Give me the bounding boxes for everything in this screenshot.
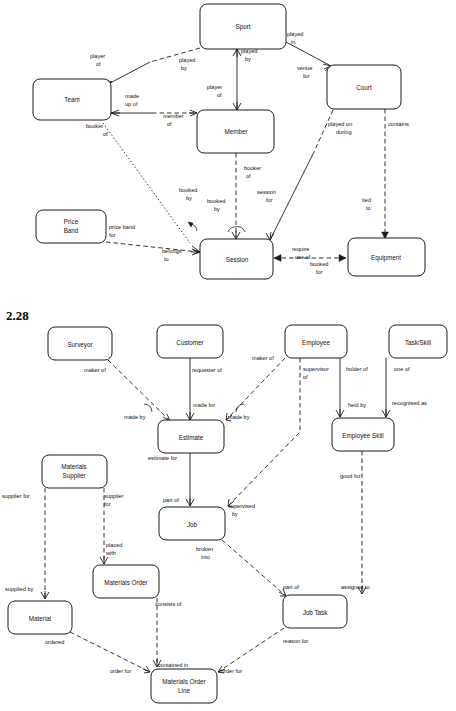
relationship-label: made bbox=[125, 93, 139, 99]
section-number: 2.28 bbox=[6, 308, 29, 323]
relationship-label: part of bbox=[163, 497, 179, 503]
relationship-label: use of bbox=[295, 254, 311, 260]
relationship-label: booker bbox=[244, 165, 261, 171]
relationship-label: supplier for bbox=[2, 493, 30, 499]
relationship-label: consists of bbox=[155, 601, 182, 607]
relationship-label: held by bbox=[348, 402, 366, 408]
relationship-label: good for bbox=[340, 473, 361, 479]
relationship-label: played bbox=[287, 31, 303, 37]
relationship-label: broken bbox=[196, 546, 213, 552]
entity-label: Surveyor bbox=[67, 341, 92, 349]
entity-label-line1: Materials Order bbox=[162, 678, 205, 685]
entity-equipment[interactable]: Equipment bbox=[348, 238, 425, 276]
entity-materials-order[interactable]: Materials Order bbox=[93, 565, 159, 598]
relationship-label: tied bbox=[362, 197, 371, 203]
relationship-label: order for bbox=[110, 668, 131, 674]
relationship-label: up of bbox=[125, 101, 138, 107]
entity-label-line2: Line bbox=[178, 687, 190, 694]
entity-employee-skill[interactable]: Employee Skill bbox=[332, 418, 394, 451]
entity-sport[interactable]: Sport bbox=[200, 4, 286, 49]
relationship-label: placed bbox=[106, 542, 122, 548]
entity-customer[interactable]: Customer bbox=[157, 325, 223, 358]
relationship-label: to bbox=[366, 205, 371, 211]
entity-session[interactable]: Session bbox=[200, 239, 273, 279]
entity-label: Materials Order bbox=[104, 579, 147, 586]
entity-court[interactable]: Court bbox=[327, 65, 401, 109]
entity-surveyor[interactable]: Surveyor bbox=[48, 327, 112, 360]
relationship-label: one of bbox=[394, 366, 410, 372]
relationship-label: played bbox=[241, 48, 257, 54]
relationship-label: of bbox=[246, 173, 251, 179]
relationship-label: of bbox=[303, 374, 308, 380]
relationship-label: made by bbox=[124, 414, 146, 420]
entity-estimate[interactable]: Estimate bbox=[158, 420, 224, 453]
entity-label: Sport bbox=[235, 23, 250, 31]
entity-label-line2: Supplier bbox=[62, 472, 85, 480]
relationship-label: for bbox=[104, 501, 111, 507]
relationship-label: holder of bbox=[346, 366, 368, 372]
entity-price-band[interactable]: Price Band bbox=[36, 210, 106, 243]
relationship-label: order for bbox=[221, 668, 242, 674]
relationship-label: for bbox=[316, 269, 323, 275]
relationship-label: booker bbox=[86, 123, 103, 129]
relationship-label: booked bbox=[310, 261, 328, 267]
relationship-label: player bbox=[90, 53, 105, 59]
relationship-label: session bbox=[257, 189, 276, 195]
relationship-label: made by bbox=[228, 414, 250, 420]
relationship-label: played on bbox=[328, 121, 352, 127]
relationship-label: for bbox=[303, 73, 310, 79]
relationship-label: by bbox=[214, 206, 220, 212]
relationship-label: supervised bbox=[228, 503, 255, 509]
relationship-label: requester of bbox=[192, 367, 222, 373]
entity-label: Job Task bbox=[303, 609, 329, 616]
entity-material[interactable]: Material bbox=[8, 601, 72, 634]
entity-job-task[interactable]: Job Task bbox=[283, 595, 347, 628]
relationship-label: venue bbox=[297, 65, 312, 71]
relationship-label: supplier bbox=[104, 493, 124, 499]
relationship-label: contained in bbox=[158, 662, 188, 668]
entity-member[interactable]: Member bbox=[197, 110, 274, 153]
relationship-label: price band bbox=[109, 224, 135, 230]
entity-label: Job bbox=[187, 521, 198, 528]
relationship-label: of bbox=[96, 61, 101, 67]
diagram-canvas: Sport Team Court Member Price Band Sessi… bbox=[0, 0, 456, 711]
relationship-label: played bbox=[179, 57, 195, 63]
entity-label: Court bbox=[356, 84, 372, 91]
relationship-label: during bbox=[336, 129, 352, 135]
entity-team[interactable]: Team bbox=[33, 79, 111, 120]
relationship-label: maker of bbox=[84, 367, 106, 373]
relationship-label: by bbox=[186, 195, 192, 201]
relationship-label: by bbox=[245, 56, 251, 62]
entity-label-line1: Materials bbox=[61, 463, 87, 470]
relationship-label: of bbox=[167, 121, 172, 127]
relationship-label: in bbox=[291, 39, 295, 45]
entity-employee[interactable]: Employee bbox=[285, 325, 347, 358]
entity-label: Team bbox=[64, 96, 79, 103]
entity-label: Material bbox=[29, 615, 51, 622]
entity-label: Employee Skill bbox=[342, 432, 383, 440]
relationship-label: of bbox=[103, 131, 108, 137]
relationship-label: by bbox=[181, 65, 187, 71]
relationship-label: estimate for bbox=[148, 455, 177, 461]
entity-materials-order-line[interactable]: Materials Order Line bbox=[151, 669, 217, 703]
relationship-label: supervisor bbox=[303, 366, 329, 372]
entity-label: Task/Skill bbox=[405, 339, 431, 346]
entity-label: Employee bbox=[302, 339, 330, 347]
entity-job[interactable]: Job bbox=[159, 507, 225, 540]
relationship-label: into bbox=[201, 554, 210, 560]
entity-label-line1: Price bbox=[64, 218, 79, 225]
relationship-label: for bbox=[266, 197, 273, 203]
relationship-label: ordered bbox=[45, 639, 64, 645]
entity-task-skill[interactable]: Task/Skill bbox=[389, 325, 447, 358]
relationship-label: made for bbox=[193, 402, 215, 408]
relationship-label: supplied by bbox=[5, 586, 34, 592]
relationship-label: recognised as bbox=[392, 400, 427, 406]
relationship-label: booked bbox=[179, 187, 197, 193]
diagram-bottom-entities: Surveyor Customer Employee Task/Skill Es… bbox=[8, 325, 447, 703]
relationship-label: member bbox=[163, 113, 184, 119]
entity-label: Member bbox=[224, 128, 247, 135]
relationship-label: contains bbox=[388, 121, 409, 127]
entity-materials-supplier[interactable]: Materials Supplier bbox=[42, 455, 107, 488]
relationship-label: belongs bbox=[162, 248, 182, 254]
relationship-label: with bbox=[105, 550, 116, 556]
